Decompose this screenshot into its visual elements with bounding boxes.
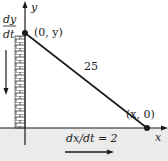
bottom-point bbox=[144, 125, 150, 131]
ladder-length-label: 25 bbox=[84, 60, 98, 73]
y-axis-label: y bbox=[30, 1, 38, 14]
wall bbox=[15, 36, 25, 128]
dy-denominator: dt bbox=[3, 28, 15, 41]
x-axis-label: x bbox=[155, 131, 162, 144]
dx-rate-label: dx/dt = 2 bbox=[66, 132, 118, 145]
arrow-down-icon bbox=[4, 50, 9, 95]
top-point-label: (0, y) bbox=[34, 26, 63, 39]
ladder-diagram: x y (0, y) (x, 0) 25 dy dt dx/dt = 2 bbox=[0, 0, 168, 161]
bottom-point-label: (x, 0) bbox=[126, 108, 155, 121]
dy-numerator: dy bbox=[3, 13, 17, 26]
top-point bbox=[22, 30, 28, 36]
